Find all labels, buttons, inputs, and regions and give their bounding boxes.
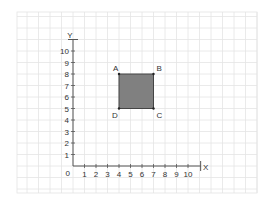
y-tick-label: 8 (65, 70, 70, 79)
x-tick-label: 9 (174, 170, 179, 179)
x-tick-label: 5 (128, 170, 133, 179)
vertex-label-c: C (157, 111, 163, 120)
origin-label: 0 (66, 169, 71, 178)
y-axis-label: Y (67, 31, 73, 40)
x-axis-label: X (203, 163, 209, 172)
x-tick-label: 4 (117, 170, 122, 179)
y-tick-label: 6 (65, 93, 70, 102)
x-tick-label: 7 (151, 170, 156, 179)
y-tick-label: 3 (65, 128, 70, 137)
square-abcd: ABCD (112, 64, 163, 120)
x-tick-label: 2 (94, 170, 99, 179)
vertex-label-a: A (113, 64, 119, 73)
x-tick-label: 3 (105, 170, 110, 179)
vertex-label-d: D (112, 111, 118, 120)
x-tick-label: 6 (140, 170, 145, 179)
y-tick-label: 2 (65, 139, 70, 148)
y-tick-label: 9 (65, 59, 70, 68)
y-tick-label: 1 (65, 151, 70, 160)
y-tick-label: 10 (60, 47, 69, 56)
y-tick-label: 5 (65, 105, 70, 114)
x-tick-label: 1 (82, 170, 87, 179)
vertex-label-b: B (157, 64, 162, 73)
y-tick-label: 4 (65, 116, 70, 125)
y-tick-label: 7 (65, 82, 70, 91)
x-tick-label: 10 (184, 170, 193, 179)
coordinate-plane: 1234567891012345678910 ABCD X Y 0 (0, 0, 267, 202)
x-tick-label: 8 (163, 170, 168, 179)
